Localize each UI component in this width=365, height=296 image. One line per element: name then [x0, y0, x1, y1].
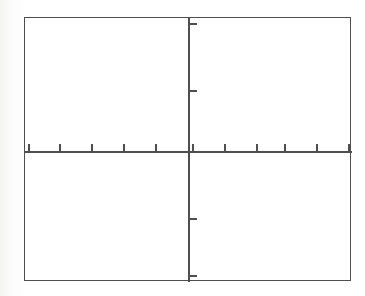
plot-frame — [24, 17, 351, 281]
data-points-layer — [25, 18, 350, 280]
figure-canvas — [0, 0, 365, 296]
